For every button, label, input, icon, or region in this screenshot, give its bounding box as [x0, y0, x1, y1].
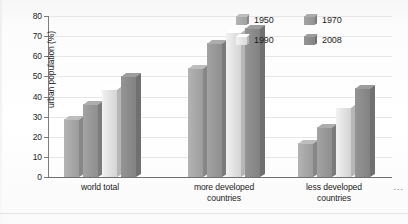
y-tick-label: 0 — [37, 172, 42, 182]
x-category-label-line2: countries — [279, 193, 389, 204]
bar — [226, 32, 241, 177]
bar-side — [260, 25, 265, 177]
legend-swatch-icon — [304, 34, 317, 45]
figure-left-edge — [0, 0, 2, 224]
y-tick-mark — [44, 177, 48, 178]
bar-face — [121, 76, 136, 177]
bar-face — [188, 68, 203, 177]
bar — [355, 88, 370, 177]
ellipsis-annotation: ... — [393, 182, 404, 192]
x-category-label-line1: less developed — [279, 182, 389, 193]
legend-item: 1970 — [304, 14, 368, 25]
bar — [83, 104, 98, 177]
y-axis-label: urban population (%) — [46, 31, 56, 108]
y-tick-label: 20 — [33, 132, 42, 142]
bar — [336, 107, 351, 177]
y-tick-label: 10 — [33, 152, 42, 162]
y-tick-mark — [44, 117, 48, 118]
legend-swatch-face — [236, 16, 247, 25]
figure-bottom-rule — [0, 213, 408, 214]
bar — [298, 143, 313, 177]
legend-swatch-face — [304, 36, 315, 45]
legend-swatch-icon — [304, 14, 317, 25]
bar — [64, 119, 79, 177]
bar — [245, 28, 260, 177]
legend-swatch-icon — [236, 14, 249, 25]
y-tick-label: 80 — [33, 11, 42, 21]
bar-side — [370, 86, 375, 177]
bar-face — [355, 88, 370, 177]
legend-label: 1990 — [254, 35, 274, 45]
legend-swatch-face — [304, 16, 315, 25]
legend-swatch-icon — [236, 34, 249, 45]
legend-label: 1950 — [254, 15, 274, 25]
x-category-label: world total — [45, 182, 155, 193]
x-category-label-line1: more developed — [169, 182, 279, 193]
x-category-label-line2: countries — [169, 193, 279, 204]
legend-item: 2008 — [304, 34, 368, 45]
x-category-label-line1: world total — [45, 182, 155, 193]
bar-face — [226, 32, 241, 177]
legend-swatch-face — [236, 36, 247, 45]
bar-face — [317, 127, 332, 177]
y-tick-label: 30 — [33, 112, 42, 122]
y-tick-label: 40 — [33, 92, 42, 102]
bar-face — [64, 119, 79, 177]
bar-face — [336, 107, 351, 177]
bar-face — [207, 43, 222, 177]
bar-side — [136, 73, 141, 177]
bar-face — [298, 143, 313, 177]
x-category-label: less developedcountries — [279, 182, 389, 203]
y-tick-label: 50 — [33, 71, 42, 81]
legend-item: 1990 — [236, 34, 300, 45]
y-tick-mark — [44, 137, 48, 138]
y-tick-mark — [44, 157, 48, 158]
x-category-label: more developedcountries — [169, 182, 279, 203]
chart-legend: 1950197019902008 — [236, 14, 368, 45]
bar-face — [102, 89, 117, 177]
bar — [188, 68, 203, 177]
legend-label: 1970 — [322, 15, 342, 25]
x-axis-line — [48, 177, 392, 178]
bar — [207, 43, 222, 177]
bar — [121, 76, 136, 177]
y-tick-label: 60 — [33, 51, 42, 61]
legend-item: 1950 — [236, 14, 300, 25]
bar-face — [83, 104, 98, 177]
bar — [317, 127, 332, 177]
chart-figure: 01020304050607080 urban population (%) w… — [0, 0, 408, 224]
bar-face — [245, 28, 260, 177]
legend-label: 2008 — [322, 35, 342, 45]
y-tick-label: 70 — [33, 31, 42, 41]
bar — [102, 89, 117, 177]
y-tick-mark — [44, 16, 48, 17]
